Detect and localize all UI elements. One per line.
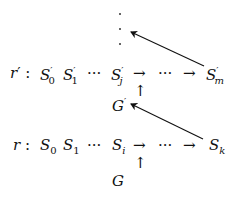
edge-Sm-to-ellipsis (131, 32, 204, 66)
edges-layer (0, 0, 240, 198)
edge-Sk-to-G-prime (131, 104, 203, 139)
